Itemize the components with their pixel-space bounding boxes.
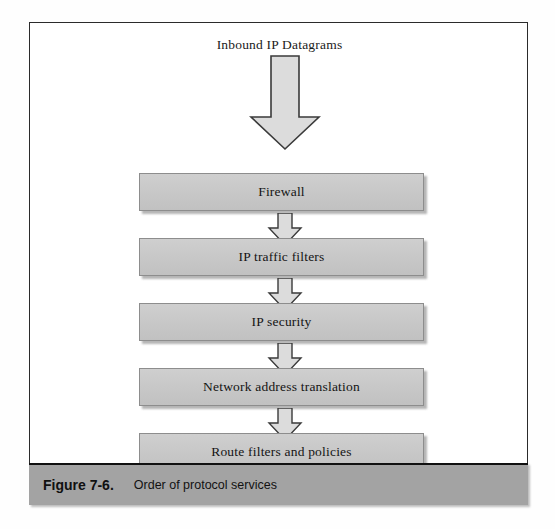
- scanned-page-background: Inbound IP Datagrams Firewall IP traffic…: [0, 0, 555, 529]
- stage-label: Network address translation: [203, 379, 360, 395]
- figure-caption-text: Order of protocol services: [134, 478, 277, 492]
- stage-box-ip-security[interactable]: IP security: [139, 303, 424, 341]
- stage-box-firewall[interactable]: Firewall: [139, 173, 424, 211]
- stage-label: Firewall: [258, 184, 305, 200]
- figure-caption-bar: Figure 7-6. Order of protocol services: [29, 463, 528, 505]
- figure-number: Figure 7-6.: [43, 477, 114, 493]
- flowchart-diagram: Inbound IP Datagrams Firewall IP traffic…: [30, 23, 529, 463]
- stage-box-network-address-translation[interactable]: Network address translation: [139, 368, 424, 406]
- stage-label: IP security: [252, 314, 312, 330]
- stage-label: Route filters and policies: [211, 444, 352, 460]
- figure-frame: Inbound IP Datagrams Firewall IP traffic…: [29, 22, 528, 505]
- stage-label: IP traffic filters: [238, 249, 324, 265]
- inbound-arrow-icon: [249, 55, 321, 151]
- source-label: Inbound IP Datagrams: [30, 37, 529, 53]
- stage-box-ip-traffic-filters[interactable]: IP traffic filters: [139, 238, 424, 276]
